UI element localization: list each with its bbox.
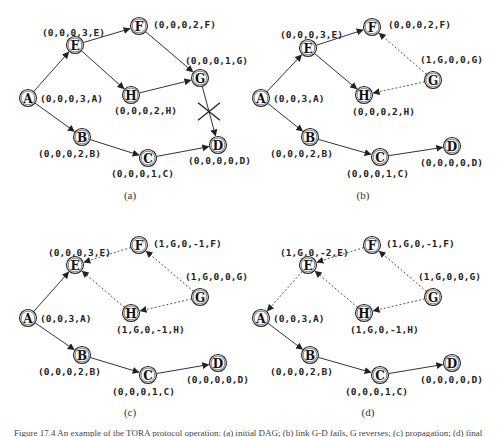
edges-layer xyxy=(34,29,443,374)
figure-caption: Figure 17.4 An example of the TORA proto… xyxy=(14,428,483,437)
node-height-label: (0,0,0,2,H) xyxy=(114,105,177,116)
edge-C-D xyxy=(156,365,208,374)
edge-E-A xyxy=(267,271,302,311)
edge-A-B xyxy=(35,323,74,350)
node-E: E xyxy=(300,257,317,274)
edge-A-E xyxy=(34,272,69,312)
node-letter: B xyxy=(77,349,87,363)
node-H: H xyxy=(356,87,373,104)
node-height-label: (0,0,0,0,D) xyxy=(188,155,251,166)
node-height-label: (0,0,0,2,F) xyxy=(153,19,216,30)
node-letter: F xyxy=(135,20,144,34)
node-height-label: (0,0,0,1,C) xyxy=(346,168,409,179)
node-letter: A xyxy=(255,92,266,106)
captions-layer: (a)(b)(c)(d) xyxy=(124,189,375,419)
node-height-label: (0,0,0,3,A) xyxy=(40,93,103,104)
node-letter: B xyxy=(305,349,315,363)
node-B: B xyxy=(302,347,319,364)
node-E: E xyxy=(300,40,317,57)
edge-A-B xyxy=(268,103,303,131)
node-letter: G xyxy=(428,74,438,88)
node-H: H xyxy=(123,305,140,322)
node-G: G xyxy=(192,70,209,87)
node-letter: A xyxy=(22,92,33,106)
node-height-label: (0,0,3,A) xyxy=(40,313,91,324)
node-H: H xyxy=(123,87,140,104)
node-B: B xyxy=(74,129,91,146)
node-letter: E xyxy=(70,39,79,53)
node-G: G xyxy=(425,289,442,306)
node-letter: F xyxy=(368,21,377,35)
node-A: A xyxy=(253,310,270,327)
node-height-label: (0,0,0,1,C) xyxy=(112,386,175,397)
node-height-label: (0,0,0,0,D) xyxy=(420,374,483,385)
panel-caption-c: (c) xyxy=(124,406,137,419)
edge-G-H xyxy=(373,82,424,93)
node-D: D xyxy=(210,137,227,154)
node-height-label: (0,0,0,2,F) xyxy=(388,19,451,30)
node-letter: B xyxy=(77,131,87,145)
node-G: G xyxy=(425,72,442,89)
node-letter: F xyxy=(368,239,377,253)
node-letter: C xyxy=(375,151,385,165)
node-letter: D xyxy=(447,357,457,371)
node-letter: C xyxy=(375,369,385,383)
node-height-label: (0,0,0,2,B) xyxy=(38,148,101,159)
labels-layer: (0,0,0,3,A)(0,0,0,3,E)(0,0,0,2,F)(0,0,0,… xyxy=(38,19,483,397)
node-height-label: (1,G,0,-1,H) xyxy=(116,324,185,335)
node-height-label: (0,0,0,3,E) xyxy=(42,27,105,38)
node-letter: E xyxy=(303,259,312,273)
node-letter: H xyxy=(358,89,369,103)
node-letter: D xyxy=(213,139,223,153)
edge-A-B xyxy=(35,103,74,131)
node-letter: F xyxy=(135,239,144,253)
broken-link-icon xyxy=(198,103,220,121)
edge-E-H xyxy=(315,53,357,88)
node-height-label: (0,0,0,2,B) xyxy=(38,366,101,377)
node-height-label: (0,0,0,3,E) xyxy=(48,247,111,258)
node-height-label: (1,G,0,-1,F) xyxy=(386,238,455,249)
node-height-label: (1,G,0,-1,F) xyxy=(153,238,222,249)
node-F: F xyxy=(364,19,381,36)
node-A: A xyxy=(20,310,37,327)
node-height-label: (0,0,3,A) xyxy=(273,313,324,324)
edge-G-H xyxy=(140,299,191,311)
node-G: G xyxy=(192,289,209,306)
node-height-label: (0,0,0,2,B) xyxy=(270,366,333,377)
panel-caption-a: (a) xyxy=(124,189,137,202)
node-B: B xyxy=(74,347,91,364)
edge-C-D xyxy=(388,147,442,155)
node-height-label: (0,0,0,1,C) xyxy=(345,386,408,397)
node-height-label: (0,0,0,2,B) xyxy=(270,148,333,159)
panel-caption-d: (d) xyxy=(362,406,375,419)
edge-H-E xyxy=(315,271,357,307)
tora-diagram: AEFHGBCDAEFHGBCDAEFHGBCDAEFHGBCD (0,0,0,… xyxy=(0,0,497,437)
node-letter: A xyxy=(22,312,33,326)
panel-caption-b: (b) xyxy=(357,189,370,202)
node-letter: H xyxy=(358,307,369,321)
node-letter: D xyxy=(213,357,223,371)
node-height-label: (1,G,0,0,G) xyxy=(420,54,483,65)
edge-A-E xyxy=(34,52,69,92)
edge-G-H xyxy=(373,299,424,311)
node-B: B xyxy=(302,129,319,146)
node-H: H xyxy=(356,305,373,322)
node-A: A xyxy=(20,90,37,107)
edge-A-E xyxy=(267,55,302,92)
node-letter: G xyxy=(195,291,205,305)
node-E: E xyxy=(67,37,84,54)
node-height-label: (1,G,0,0,G) xyxy=(185,271,248,282)
node-F: F xyxy=(131,237,148,254)
node-height-label: (0,0,0,3,E) xyxy=(280,29,343,40)
node-letter: E xyxy=(70,259,79,273)
node-height-label: (0,0,3,A) xyxy=(273,93,324,104)
node-height-label: (0,0,0,1,G) xyxy=(185,55,248,66)
node-height-label: (0,0,0,2,H) xyxy=(352,106,415,117)
edge-H-G xyxy=(139,80,191,93)
node-letter: C xyxy=(143,152,153,166)
edge-H-E xyxy=(82,271,124,307)
node-height-label: (1,G,0,-1,H) xyxy=(350,324,419,335)
node-A: A xyxy=(253,90,270,107)
node-height-label: (0,0,0,0,D) xyxy=(186,374,249,385)
node-letter: C xyxy=(143,369,153,383)
